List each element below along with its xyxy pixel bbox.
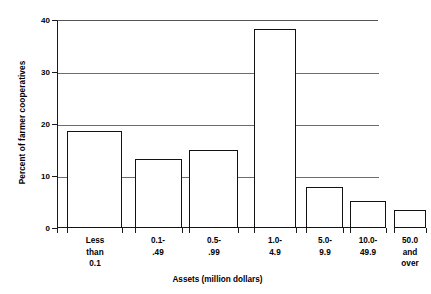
x-tick-mark-1 (67, 228, 68, 233)
y-tick-label-40: 40 (4, 16, 50, 25)
x-axis-title: Assets (million dollars) (57, 275, 378, 284)
x-cat-line: 50.0 (381, 235, 431, 247)
x-tick-mark-2 (122, 228, 123, 233)
x-tick-mark-12 (386, 228, 387, 233)
y-tick-label-20: 20 (4, 120, 50, 129)
x-tick-mark-6 (238, 228, 239, 233)
x-cat-line: over (381, 258, 431, 270)
x-cat-line: Less (65, 235, 125, 247)
x-cat-line: 0.5- (185, 235, 243, 247)
bar-series (57, 20, 378, 228)
x-tick-mark-3 (135, 228, 136, 233)
bar-50-0-and-over (394, 210, 426, 228)
x-tick-mark-11 (350, 228, 351, 233)
y-tick-label-10: 10 (4, 172, 50, 181)
x-tick-mark-5 (189, 228, 190, 233)
x-tick-mark-13 (394, 228, 395, 233)
x-tick-mark-10 (343, 228, 344, 233)
x-cat-line: 0.1 (65, 258, 125, 270)
x-tick-mark-4 (182, 228, 183, 233)
x-category-50-0-and-over: 50.0 and over (381, 235, 431, 270)
bar-0-5-to-0-99 (189, 150, 238, 228)
x-tick-mark-0 (57, 228, 58, 233)
bar-10-0-to-49-9 (350, 201, 386, 228)
y-tick-label-30: 30 (4, 68, 50, 77)
x-tick-marks (57, 228, 378, 233)
x-cat-line: than (65, 247, 125, 259)
bar-5-0-to-9-9 (306, 187, 343, 228)
x-tick-mark-8 (296, 228, 297, 233)
x-tick-mark-14 (426, 228, 427, 233)
bar-1-0-to-4-9 (254, 29, 296, 228)
x-category-0-5-to-0-99: 0.5- .99 (185, 235, 243, 258)
bar-less-than-0-1 (67, 131, 122, 228)
x-category-labels: Less than 0.1 0.1- .49 0.5- .99 1.0- 4.9… (57, 235, 378, 277)
x-cat-line: .49 (129, 247, 187, 259)
y-tick-label-0: 0 (4, 224, 50, 233)
x-cat-line: .99 (185, 247, 243, 259)
x-category-0-1-to-0-49: 0.1- .49 (129, 235, 187, 258)
x-cat-line: 0.1- (129, 235, 187, 247)
x-tick-mark-9 (306, 228, 307, 233)
x-cat-line: and (381, 247, 431, 259)
bar-0-1-to-0-49 (135, 159, 182, 228)
x-tick-mark-7 (254, 228, 255, 233)
x-category-less-than-0-1: Less than 0.1 (65, 235, 125, 270)
